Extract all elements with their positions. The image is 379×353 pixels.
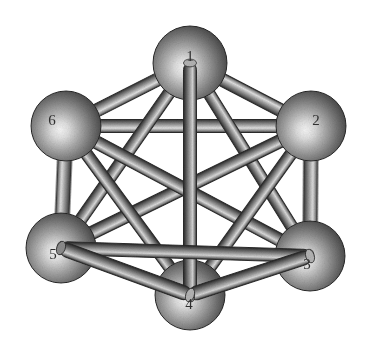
graph-node-2[interactable] [276,91,346,161]
edge-rod-cap [184,59,197,67]
graph-node-6[interactable] [31,91,101,161]
figure-canvas: 123456 [0,0,379,353]
graph-diagram: 123456 [0,0,379,353]
edge-rod [184,63,197,295]
node-sphere[interactable] [276,91,346,161]
graph-edge-1-4 [184,59,197,299]
node-sphere[interactable] [31,91,101,161]
